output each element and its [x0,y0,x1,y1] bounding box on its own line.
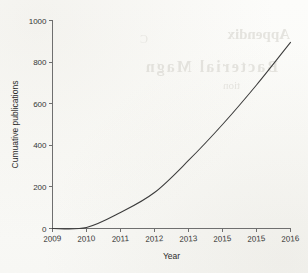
y-tick-label-200: 200 [33,183,47,192]
x-tick-label-3: 2012 [145,234,164,244]
x-tick-label-5: 2015 [213,234,232,244]
chart-figure: 02004006008001000 2009201020112012201320… [0,0,308,273]
data-curve-cumulative-publications [53,42,291,229]
y-axis-title: Cumuative publications [10,81,20,169]
y-tick-label-0: 0 [42,225,47,234]
y-tick-label-800: 800 [33,58,47,67]
x-axis: 20092010201120122013201520152016 [43,229,300,245]
y-axis-ticks: 02004006008001000 [29,17,53,234]
x-tick-label-1: 2010 [77,234,96,244]
y-axis: 02004006008001000 [29,17,53,234]
line-chart: 02004006008001000 2009201020112012201320… [0,0,308,273]
x-tick-label-0: 2009 [43,234,62,244]
x-axis-title: Year [163,251,180,261]
x-axis-ticks: 20092010201120122013201520152016 [43,229,300,245]
x-tick-label-7: 2016 [281,234,300,244]
x-tick-label-6: 2015 [247,234,266,244]
y-tick-label-400: 400 [33,141,47,150]
y-tick-label-600: 600 [33,100,47,109]
y-tick-label-1000: 1000 [29,17,47,26]
x-tick-label-4: 2013 [179,234,198,244]
x-tick-label-2: 2011 [111,234,129,244]
